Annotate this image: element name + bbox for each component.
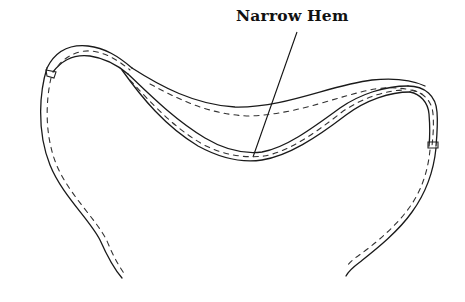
callout-leader-line bbox=[253, 32, 297, 157]
back-neckline-outer bbox=[132, 68, 425, 107]
left-stitch-line bbox=[47, 78, 126, 276]
front-neckline-lower-edge bbox=[122, 70, 410, 161]
left-tack-mark bbox=[46, 70, 56, 78]
right-shoulder-inner-edge bbox=[410, 92, 430, 146]
right-stitch-line bbox=[346, 150, 430, 268]
left-shoulder-inner-edge bbox=[53, 56, 128, 74]
left-outer-edge bbox=[41, 68, 122, 278]
right-outer-edge bbox=[346, 148, 436, 276]
neckline-diagram bbox=[0, 0, 465, 302]
